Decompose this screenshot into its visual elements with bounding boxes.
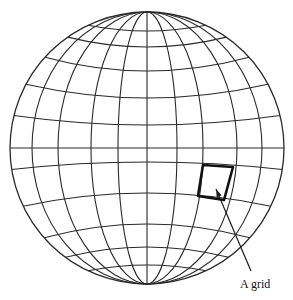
globe-diagram: A grid [0,0,293,300]
highlighted-grid-cell [198,165,233,200]
grid-label: A grid [240,277,270,291]
arrow-head-icon [216,189,222,197]
